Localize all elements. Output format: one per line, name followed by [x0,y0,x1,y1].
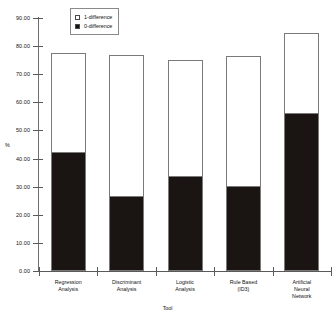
y-axis-tick [33,271,43,272]
x-axis-category-label: Regression Analysis [39,279,97,293]
y-axis-tick-label: 70.00 [0,71,30,77]
x-axis-category-label: Logistic Analysis [156,279,214,293]
y-axis-tick [33,187,43,188]
x-axis-tick [97,267,98,276]
y-axis-tick-label: 60.00 [0,99,30,105]
bar-segment-0-difference [285,113,318,270]
y-axis-tick-label: 20.00 [0,212,30,218]
x-axis-category-label: Discriminant Analysis [97,279,155,293]
x-axis-tick [273,267,274,276]
legend-item-0-difference: 0-difference [75,22,112,30]
legend-swatch-white-icon [75,15,80,20]
y-axis-line [38,17,39,272]
x-axis-category-label: Rule Based (ID3) [214,279,272,293]
y-axis-tick-label: 50.00 [0,127,30,133]
legend-label-1-difference: 1-difference [84,14,112,20]
chart-legend: 1-difference 0-difference [70,8,119,35]
y-axis-tick [33,243,43,244]
x-axis-tick [331,267,332,276]
x-axis-tick [214,267,215,276]
y-axis-tick-label: 30.00 [0,184,30,190]
bar-segment-0-difference [110,196,143,270]
y-axis-tick-label: 90.00 [0,15,30,21]
legend-label-0-difference: 0-difference [84,23,112,29]
bar-stack [284,33,319,271]
bar-stack [168,60,203,271]
y-axis-title: % [5,142,10,148]
y-axis-tick-label: 40.00 [0,156,30,162]
bar-segment-0-difference [52,152,85,270]
y-axis-tick [33,74,43,75]
y-axis-tick-label: 10.00 [0,240,30,246]
bar-chart: 1-difference 0-difference % Tool 0.0010.… [0,0,335,322]
y-axis-tick [33,46,43,47]
x-axis-tick [156,267,157,276]
x-axis-title: Tool [0,305,335,311]
x-axis-tick [39,267,40,276]
y-axis-tick-label: 0.00 [0,268,30,274]
x-axis-category-label: Artificial Neural Network [273,279,331,301]
bar-segment-0-difference [227,186,260,270]
legend-item-1-difference: 1-difference [75,13,112,21]
y-axis-tick-label: 80.00 [0,43,30,49]
bar-segment-0-difference [169,176,202,270]
y-axis-tick [33,102,43,103]
bar-stack [226,56,261,271]
y-axis-tick [33,18,43,19]
bar-stack [51,53,86,271]
x-axis-line [38,271,331,272]
bar-stack [109,55,144,271]
legend-swatch-black-icon [75,24,80,29]
y-axis-tick [33,215,43,216]
y-axis-tick [33,130,43,131]
y-axis-tick [33,159,43,160]
